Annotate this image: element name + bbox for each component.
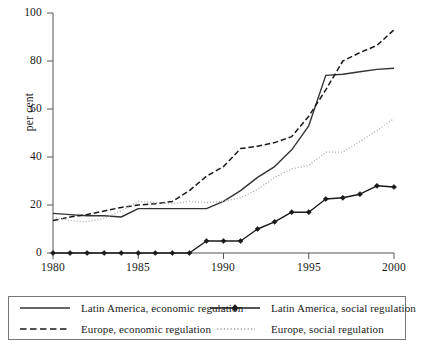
y-tick-marks <box>47 13 53 253</box>
series-line-1 <box>53 30 394 221</box>
solid-line-swatch <box>19 302 71 314</box>
axes-group <box>47 13 394 259</box>
legend-row-1: Latin America, economic regulation Latin… <box>9 297 405 319</box>
legend-label-europe-social: Europe, social regulation <box>271 323 384 335</box>
solid-marker-line-swatch <box>209 302 261 314</box>
legend-item-europe-economic: Europe, economic regulation <box>9 318 205 340</box>
legend-item-latin-social: Latin America, social regulation <box>205 297 405 319</box>
plot-area <box>0 0 422 290</box>
legend-label-europe-economic: Europe, economic regulation <box>81 323 211 335</box>
legend-row-2: Europe, economic regulation Europe, soci… <box>9 318 405 340</box>
legend-item-latin-economic: Latin America, economic regulation <box>9 297 205 319</box>
series-line-3 <box>53 119 394 222</box>
chart-legend: Latin America, economic regulation Latin… <box>8 296 406 340</box>
series-line-0 <box>53 68 394 217</box>
series-markers-2 <box>50 183 396 255</box>
legend-label-latin-social: Latin America, social regulation <box>271 302 416 314</box>
series-layer <box>50 30 396 256</box>
dashed-line-swatch <box>19 323 71 335</box>
legend-item-europe-social: Europe, social regulation <box>205 318 405 340</box>
chart-figure: per cent 100 80 60 40 20 0 1980 1985 199… <box>0 0 422 350</box>
dotted-line-swatch <box>209 323 261 335</box>
